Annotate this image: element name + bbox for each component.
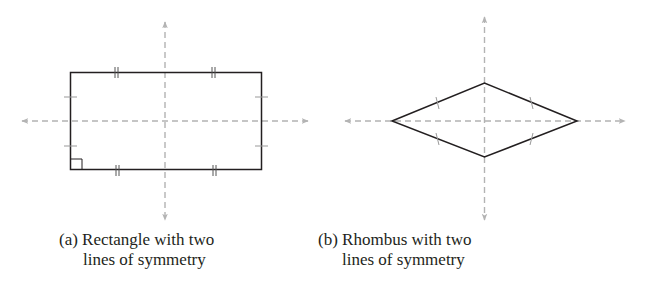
caption-b: (b) Rhombus with two lines of symmetry	[318, 230, 471, 270]
right-angle-mark	[71, 159, 82, 170]
caption-a-line2: lines of symmetry	[59, 250, 214, 270]
panel-b-rhombus	[345, 17, 625, 220]
caption-b-line1: (b) Rhombus with two	[318, 230, 471, 250]
caption-b-line2: lines of symmetry	[318, 250, 471, 270]
caption-a: (a) Rectangle with two lines of symmetry	[59, 230, 214, 270]
panel-a-rectangle	[22, 22, 308, 220]
caption-a-line1: (a) Rectangle with two	[59, 230, 214, 250]
